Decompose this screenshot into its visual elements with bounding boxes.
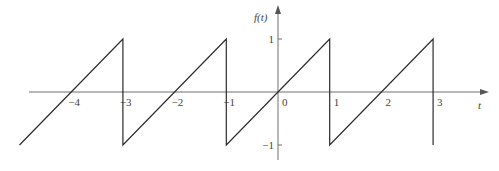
x-tick-label: −1 [223, 96, 235, 108]
y-tick-label: −1 [262, 139, 274, 151]
x-axis-label: t [478, 99, 482, 111]
x-tick-label: 1 [334, 96, 340, 108]
x-tick-label: −2 [172, 96, 184, 108]
x-tick-label: −4 [68, 96, 80, 108]
x-axis-arrow-icon [480, 89, 489, 95]
y-axis-label: f(t) [254, 11, 268, 24]
x-tick-label: 3 [437, 96, 443, 108]
x-tick-label: 2 [385, 96, 391, 108]
x-tick-label: −3 [120, 96, 132, 108]
y-axis-label-text: f(t) [254, 11, 268, 24]
sawtooth-chart: −4−3−2−101231−1 t f(t) [0, 0, 499, 171]
y-axis-arrow-icon [275, 5, 281, 14]
axes [29, 5, 489, 160]
x-tick-label: 0 [282, 96, 288, 108]
y-tick-label: 1 [269, 33, 275, 45]
